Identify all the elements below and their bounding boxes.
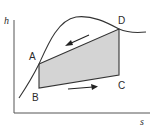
hs-diagram: h s A B C D bbox=[0, 0, 152, 128]
y-axis-label: h bbox=[4, 15, 9, 26]
point-d-label: D bbox=[118, 15, 125, 26]
point-c-label: C bbox=[118, 80, 125, 91]
arrow-lower-icon bbox=[68, 84, 98, 90]
cycle-area bbox=[39, 29, 119, 88]
point-b-label: B bbox=[32, 92, 39, 103]
x-axis-label: s bbox=[140, 116, 144, 127]
point-a-label: A bbox=[29, 51, 36, 62]
